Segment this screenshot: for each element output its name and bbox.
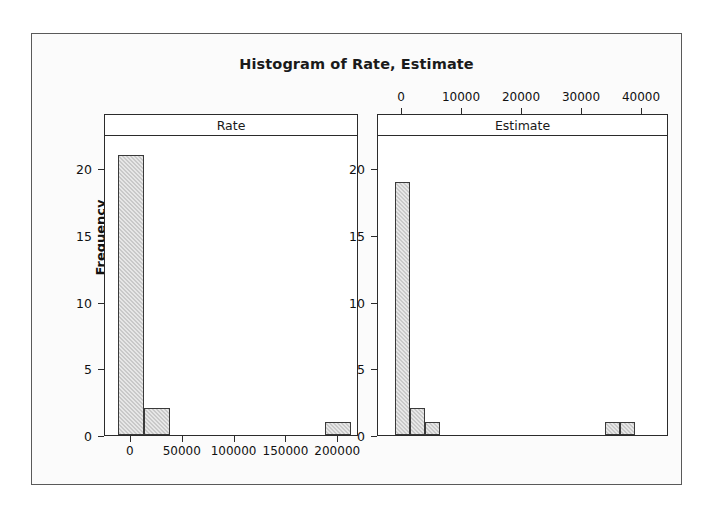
x-tick-label: 20000: [502, 90, 540, 104]
page-title: Histogram of Rate, Estimate: [32, 56, 681, 72]
histogram-bar: [620, 422, 635, 435]
x-tick-label: 0: [126, 444, 134, 458]
y-tick-label: 20: [331, 162, 365, 177]
x-tick-label: 30000: [562, 90, 600, 104]
y-tick-label: 15: [58, 229, 92, 244]
x-tick-label: 200000: [314, 444, 360, 458]
histogram-bar: [144, 408, 170, 435]
y-tick-label: 5: [58, 362, 92, 377]
x-tick-mark: [234, 436, 235, 442]
histogram-bar: [410, 408, 425, 435]
y-tick-label: 15: [331, 229, 365, 244]
x-tick-label: 10000: [442, 90, 480, 104]
y-tick-label: 10: [58, 295, 92, 310]
y-tick-label: 0: [58, 429, 92, 444]
histogram-bar: [605, 422, 620, 435]
x-tick-label: 0: [397, 90, 405, 104]
y-tick-label: 0: [331, 429, 365, 444]
panel-label-estimate: Estimate: [377, 114, 668, 136]
x-tick-label: 150000: [263, 444, 309, 458]
x-tick-label: 50000: [163, 444, 201, 458]
x-tick-label: 40000: [622, 90, 660, 104]
histogram-bar: [118, 155, 144, 435]
y-tick-label: 10: [331, 295, 365, 310]
y-tick-mark: [371, 436, 377, 437]
x-tick-mark: [130, 436, 131, 442]
x-tick-mark: [285, 436, 286, 442]
panel-label-rate: Rate: [104, 114, 358, 136]
plot-area-rate: [104, 136, 358, 436]
y-tick-mark: [98, 436, 104, 437]
histogram-bar: [425, 422, 440, 435]
histogram-bar: [395, 182, 410, 435]
x-tick-label: 100000: [211, 444, 257, 458]
graph-frame: Histogram of Rate, Estimate Frequency 05…: [31, 33, 682, 485]
estimate-panel: Estimate: [377, 114, 668, 436]
rate-panel: Rate: [104, 114, 358, 436]
x-tick-mark: [182, 436, 183, 442]
plot-area-estimate: [377, 136, 668, 436]
y-tick-label: 20: [58, 162, 92, 177]
y-tick-label: 5: [331, 362, 365, 377]
